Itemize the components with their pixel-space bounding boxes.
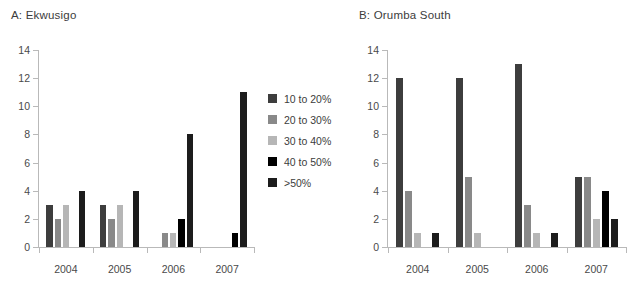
y-axis-tick [33, 50, 39, 51]
y-axis-label: 6 [24, 157, 30, 169]
legend-label: 10 to 20% [284, 93, 331, 105]
x-axis-tick [254, 247, 255, 253]
bar [456, 78, 463, 247]
x-axis-tick [200, 247, 201, 253]
x-axis-tick [626, 247, 627, 253]
y-axis-tick [33, 219, 39, 220]
x-axis-label: 2006 [162, 263, 185, 275]
legend: 10 to 20%20 to 30%30 to 40%40 to 50%>50% [268, 88, 354, 193]
bar [602, 191, 609, 247]
x-axis-label: 2007 [215, 263, 238, 275]
y-axis-label: 2 [24, 213, 30, 225]
y-axis-label: 6 [373, 157, 379, 169]
y-axis-label: 4 [24, 185, 30, 197]
legend-row: 40 to 50% [268, 151, 354, 172]
y-axis-label: 10 [18, 100, 30, 112]
bar [117, 205, 123, 247]
bar [575, 177, 582, 247]
bar [162, 233, 168, 247]
legend-label: >50% [284, 177, 311, 189]
y-axis-tick [382, 134, 388, 135]
legend-swatch-icon [268, 136, 277, 145]
y-axis-label: 12 [18, 72, 30, 84]
bar [396, 78, 403, 247]
plot-area-a: 024681012142004200520062007 [38, 50, 254, 248]
bar [170, 233, 176, 247]
legend-swatch-icon [268, 157, 277, 166]
bar [55, 219, 61, 247]
bar [133, 191, 139, 247]
bar [465, 177, 472, 247]
x-axis-label: 2005 [108, 263, 131, 275]
legend-label: 40 to 50% [284, 156, 331, 168]
y-axis-tick [33, 163, 39, 164]
x-axis-tick [93, 247, 94, 253]
bar [100, 205, 106, 247]
y-axis-tick [382, 50, 388, 51]
legend-label: 30 to 40% [284, 135, 331, 147]
bar [232, 233, 238, 247]
y-axis-tick [382, 106, 388, 107]
bar [414, 233, 421, 247]
y-axis-label: 0 [24, 241, 30, 253]
bar [474, 233, 481, 247]
y-axis-label: 14 [367, 44, 379, 56]
y-axis-tick [382, 78, 388, 79]
x-axis-label: 2005 [466, 263, 489, 275]
y-axis-label: 4 [373, 185, 379, 197]
plot-area-b: 024681012142004200520062007 [387, 50, 626, 248]
bar [46, 205, 52, 247]
figure: A: Ekwusigo 024681012142004200520062007 … [0, 0, 636, 283]
bar [79, 191, 85, 247]
x-axis-label: 2006 [525, 263, 548, 275]
bar [551, 233, 558, 247]
x-axis-tick [507, 247, 508, 253]
bar [611, 219, 618, 247]
y-axis-tick [382, 191, 388, 192]
y-axis-tick [33, 106, 39, 107]
y-axis-tick [33, 191, 39, 192]
bar [178, 219, 184, 247]
legend-swatch-icon [268, 94, 277, 103]
y-axis-label: 2 [373, 213, 379, 225]
x-axis-label: 2007 [585, 263, 608, 275]
bar [515, 64, 522, 247]
bar [108, 219, 114, 247]
bar [187, 134, 193, 247]
x-axis-label: 2004 [406, 263, 429, 275]
y-axis-label: 14 [18, 44, 30, 56]
legend-row: 10 to 20% [268, 88, 354, 109]
bar [432, 233, 439, 247]
bar [593, 219, 600, 247]
bar [240, 92, 246, 247]
panel-a-title: A: Ekwusigo [11, 9, 76, 21]
y-axis-label: 12 [367, 72, 379, 84]
y-axis-tick [33, 134, 39, 135]
panel-b-title: B: Orumba South [359, 9, 451, 21]
bar [405, 191, 412, 247]
y-axis-label: 8 [24, 128, 30, 140]
x-axis-tick [147, 247, 148, 253]
legend-label: 20 to 30% [284, 114, 331, 126]
y-axis-tick [382, 219, 388, 220]
y-axis-label: 0 [373, 241, 379, 253]
legend-swatch-icon [268, 178, 277, 187]
bar [533, 233, 540, 247]
bar [63, 205, 69, 247]
x-axis-tick [448, 247, 449, 253]
legend-row: >50% [268, 172, 354, 193]
x-axis-label: 2004 [54, 263, 77, 275]
bar [524, 205, 531, 247]
y-axis-tick [33, 78, 39, 79]
bar [584, 177, 591, 247]
y-axis-label: 10 [367, 100, 379, 112]
legend-row: 30 to 40% [268, 130, 354, 151]
legend-row: 20 to 30% [268, 109, 354, 130]
chart-panel-b: B: Orumba South 024681012142004200520062… [355, 0, 636, 283]
x-axis-tick [388, 247, 389, 253]
y-axis-tick [382, 163, 388, 164]
y-axis-label: 8 [373, 128, 379, 140]
legend-swatch-icon [268, 115, 277, 124]
x-axis-tick [567, 247, 568, 253]
x-axis-tick [39, 247, 40, 253]
